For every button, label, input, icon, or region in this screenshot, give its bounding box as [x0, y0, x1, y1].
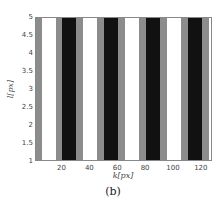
stripe-gray [56, 18, 63, 160]
figure-caption: (b) [105, 185, 121, 198]
stripe-black [62, 18, 76, 160]
y-tick-label: 4.5 [22, 31, 33, 39]
stripe-gray [181, 18, 188, 160]
y-tick-label: 1 [29, 157, 33, 165]
x-tick-label: 60 [113, 164, 122, 172]
y-axis-label: l[px] [6, 80, 15, 98]
heatmap-plot-area [35, 17, 212, 161]
y-tick-label: 3 [29, 85, 33, 93]
y-tick-label: 4 [29, 49, 33, 57]
x-tick-label: 80 [141, 164, 150, 172]
y-tick-label: 5 [29, 13, 33, 21]
x-axis-label: k[px] [113, 171, 134, 180]
y-tick-label: 3.5 [22, 67, 33, 75]
stripe-black [104, 18, 118, 160]
stripe-white [209, 18, 212, 160]
y-tick-label: 2.5 [22, 103, 33, 111]
x-tick-label: 120 [194, 164, 207, 172]
stripe-gray [202, 18, 209, 160]
stripe-gray [160, 18, 167, 160]
stripe-white [42, 18, 56, 160]
stripe-gray [139, 18, 146, 160]
stripe-gray [76, 18, 83, 160]
y-tick-label: 2 [29, 121, 33, 129]
x-tick-label: 40 [85, 164, 94, 172]
stripe-white [167, 18, 181, 160]
stripe-gray [118, 18, 125, 160]
stripe-black [146, 18, 160, 160]
x-tick-label: 20 [57, 164, 66, 172]
x-tick-label: 100 [166, 164, 179, 172]
stripe-gray [97, 18, 104, 160]
stripe-white [83, 18, 97, 160]
stripe-white [125, 18, 139, 160]
y-tick-label: 1.5 [22, 139, 33, 147]
stripe-black [188, 18, 202, 160]
